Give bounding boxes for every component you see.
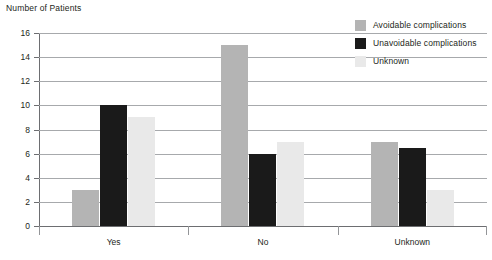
bar-group — [39, 33, 188, 226]
bar — [100, 105, 127, 226]
legend-swatch-icon — [355, 56, 366, 67]
legend-swatch-icon — [355, 38, 366, 49]
bar — [221, 45, 248, 226]
y-axis-tick-label: 8 — [25, 125, 30, 135]
bar — [427, 190, 454, 226]
legend-item: Unknown — [355, 53, 477, 69]
y-axis-labels: 0246810121416 — [0, 33, 30, 226]
bar-chart: Number of Patients 0246810121416 YesNoUn… — [0, 0, 492, 260]
bar — [72, 190, 99, 226]
bar — [399, 148, 426, 226]
chart-legend: Avoidable complicationsUnavoidable compl… — [355, 17, 477, 71]
bar — [249, 154, 276, 226]
legend-swatch-icon — [355, 20, 366, 31]
legend-item-label: Unknown — [373, 56, 409, 66]
legend-item: Unavoidable complications — [355, 35, 477, 51]
x-axis-tick-label: Unknown — [395, 237, 430, 247]
y-axis-title: Number of Patients — [6, 3, 81, 13]
x-axis-separator — [188, 226, 189, 235]
y-axis-tick-label: 4 — [25, 173, 30, 183]
bar — [277, 142, 304, 226]
y-axis-tick-label: 0 — [25, 221, 30, 231]
x-axis-tick-label: No — [258, 237, 269, 247]
y-axis-tick-label: 16 — [21, 28, 30, 38]
y-axis-tick-label: 6 — [25, 149, 30, 159]
y-axis-tick-mark — [34, 202, 39, 203]
bar — [371, 142, 398, 226]
y-axis-tick-mark — [34, 57, 39, 58]
y-axis-tick-mark — [34, 130, 39, 131]
y-axis-tick-label: 10 — [21, 100, 30, 110]
x-axis-separator — [338, 226, 339, 235]
legend-item: Avoidable complications — [355, 17, 477, 33]
y-axis-tick-mark — [34, 105, 39, 106]
y-axis-tick-mark — [34, 33, 39, 34]
legend-item-label: Avoidable complications — [373, 20, 466, 30]
bar — [128, 117, 155, 226]
x-axis: YesNoUnknown — [39, 226, 487, 260]
y-axis-tick-mark — [34, 226, 39, 227]
y-axis-tick-mark — [34, 154, 39, 155]
bar-group — [188, 33, 337, 226]
legend-item-label: Unavoidable complications — [373, 38, 477, 48]
y-axis-tick-mark — [34, 81, 39, 82]
y-axis-tick-label: 2 — [25, 197, 30, 207]
x-axis-separator — [39, 226, 40, 235]
y-axis-tick-label: 14 — [21, 52, 30, 62]
x-axis-tick-label: Yes — [107, 237, 121, 247]
y-axis-tick-label: 12 — [21, 76, 30, 86]
x-axis-separator — [486, 226, 487, 235]
y-axis-tick-mark — [34, 178, 39, 179]
